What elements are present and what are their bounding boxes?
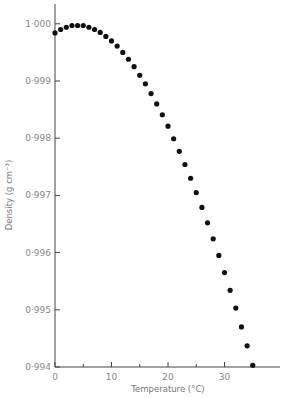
data-point — [58, 27, 63, 32]
svg-text:10: 10 — [106, 372, 118, 382]
svg-text:0·997: 0·997 — [25, 190, 51, 200]
data-point — [64, 25, 69, 30]
data-point — [154, 101, 159, 106]
data-point — [216, 253, 221, 258]
data-point — [148, 91, 153, 96]
data-point — [233, 305, 238, 310]
svg-text:30: 30 — [219, 372, 231, 382]
data-point — [160, 112, 165, 117]
data-point — [194, 190, 199, 195]
data-point — [182, 162, 187, 167]
data-point — [188, 176, 193, 181]
data-point — [109, 38, 114, 43]
data-point — [98, 30, 103, 35]
data-point — [120, 50, 125, 55]
density-temperature-chart: 1·0000·9990·9980·9970·9960·9950·994 0102… — [0, 0, 285, 398]
data-point — [115, 44, 120, 49]
data-point — [143, 81, 148, 86]
y-axis-label: Density (g cm⁻³) — [4, 160, 14, 231]
data-point — [211, 236, 216, 241]
data-point — [103, 34, 108, 39]
data-point — [245, 343, 250, 348]
data-point — [126, 57, 131, 62]
data-point — [228, 288, 233, 293]
data-point — [86, 25, 91, 30]
svg-text:0·995: 0·995 — [25, 305, 51, 315]
svg-text:1·000: 1·000 — [25, 19, 51, 29]
svg-text:0: 0 — [52, 372, 58, 382]
data-point — [250, 363, 255, 368]
svg-text:0·999: 0·999 — [25, 76, 51, 86]
x-axis-ticks: 0102030 — [52, 362, 253, 382]
svg-text:0·996: 0·996 — [25, 248, 51, 258]
data-point — [75, 23, 80, 28]
svg-text:0·994: 0·994 — [25, 362, 51, 372]
data-point — [177, 149, 182, 154]
data-point — [52, 30, 57, 35]
data-point — [69, 23, 74, 28]
x-axis-label: Temperature (°C) — [130, 384, 204, 394]
data-point — [165, 124, 170, 129]
data-point — [239, 324, 244, 329]
data-point — [205, 220, 210, 225]
data-point — [81, 23, 86, 28]
data-point — [222, 270, 227, 275]
data-point — [137, 73, 142, 78]
data-point — [199, 205, 204, 210]
data-point — [132, 64, 137, 69]
data-points — [52, 23, 255, 368]
data-point — [171, 136, 176, 141]
svg-text:0·998: 0·998 — [25, 133, 51, 143]
svg-text:20: 20 — [162, 372, 174, 382]
data-point — [92, 27, 97, 32]
